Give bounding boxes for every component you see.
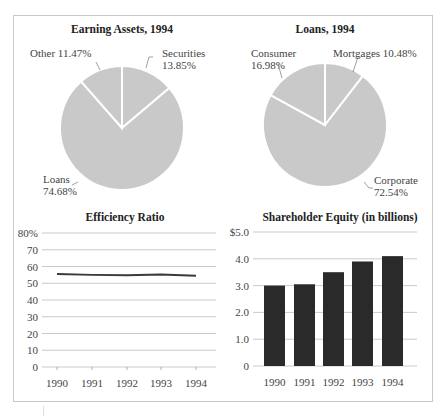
equity-bar-1991 [294,284,315,366]
y-tick-label: $5.0 [230,226,249,238]
x-tick-label: 1994 [373,376,413,388]
y-tick-label: 2.0 [235,306,249,318]
y-tick-label: 4.0 [235,253,249,265]
shareholder-equity-chart [0,0,447,420]
equity-bar-1993 [352,261,373,366]
y-tick-label: 3.0 [235,280,249,292]
equity-bar-1994 [382,256,403,366]
y-tick-label: 0 [244,360,250,372]
equity-bar-1990 [264,286,285,366]
equity-bar-1992 [323,272,344,366]
y-tick-label: 1.0 [235,333,249,345]
